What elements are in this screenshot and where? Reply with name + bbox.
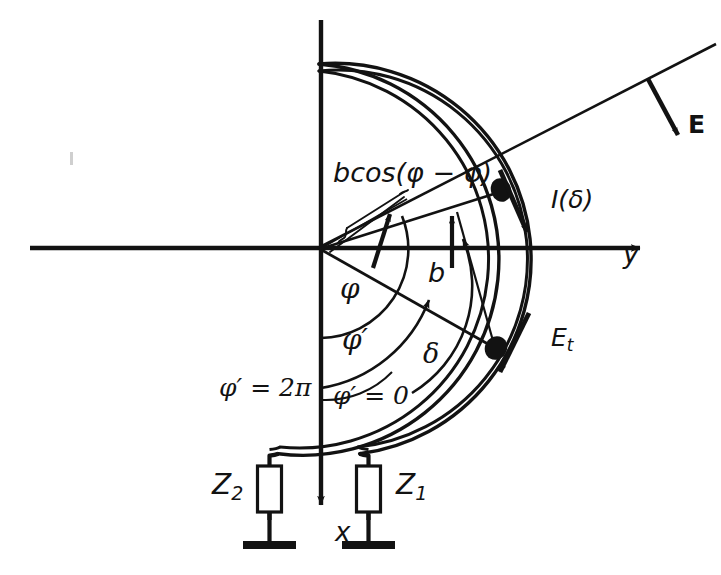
e-tangential-sub: t: [567, 335, 574, 355]
angle-phi-prime-label: φ′: [342, 326, 368, 354]
angle-phi-label: φ: [340, 275, 360, 303]
impedance-right-label: Z1: [396, 471, 427, 503]
e-tangential-base: E: [551, 323, 567, 352]
figure-root: bcos(φ − φ) E I(δ) Et y x φ φ′ b δ φ′ = …: [0, 0, 721, 575]
angle-delta-label: δ: [423, 340, 439, 367]
impedance-left-base: Z: [212, 468, 231, 501]
radius-label: b: [428, 259, 445, 286]
impedance-right-base: Z: [396, 468, 415, 501]
impedance-box-left: [258, 466, 282, 512]
impedance-right-sub: 1: [415, 482, 427, 504]
phi-prime-two-pi-label: φ′ = 2π: [219, 375, 311, 400]
lead-left-inner: [270, 447, 281, 450]
projection-arrow-left: [373, 214, 390, 268]
impedance-box-right: [357, 466, 381, 512]
impedance-left-sub: 2: [231, 482, 243, 504]
phi-prime-zero-label: φ′ = 0: [333, 383, 409, 408]
e-tangential-label: Et: [551, 325, 573, 354]
diagram-canvas: [0, 0, 721, 575]
lead-right-inner: [358, 447, 369, 450]
angle-arc-phi-prime: [321, 300, 429, 388]
projection-label: bcos(φ − φ): [333, 159, 492, 186]
ground-symbol-left: [243, 512, 296, 549]
projection-baseline: [320, 199, 407, 249]
current-label: I(δ): [551, 187, 593, 212]
x-axis-label: x: [335, 519, 350, 545]
y-axis-label: y: [623, 240, 639, 267]
scan-artifact: [70, 152, 73, 165]
e-field-label: E: [688, 112, 705, 137]
impedance-left-label: Z2: [212, 471, 243, 503]
e-field-vector: [648, 79, 678, 135]
